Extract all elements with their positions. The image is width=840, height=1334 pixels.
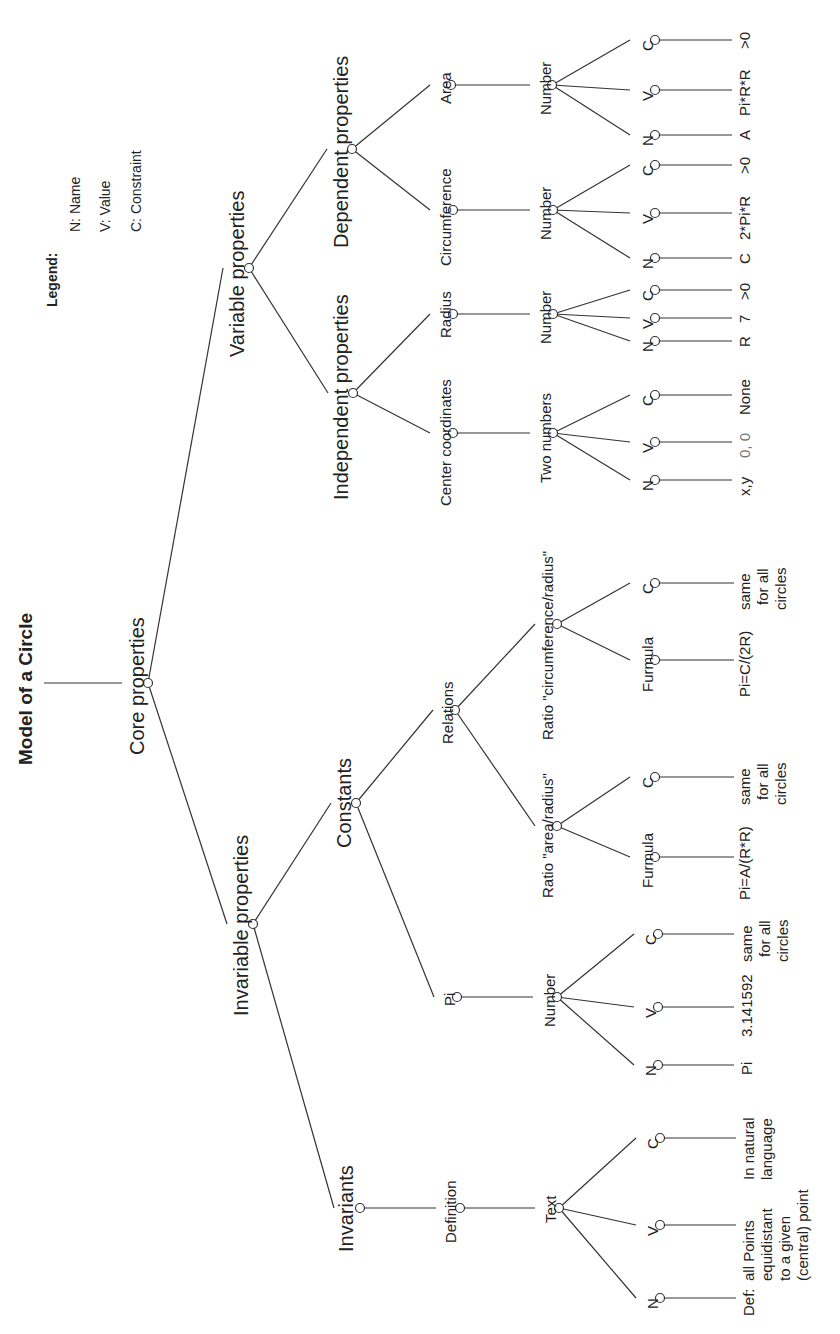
leaf-line: to a given	[776, 1216, 793, 1281]
leaf-line: same	[738, 925, 755, 962]
label-pi-number: Number	[541, 974, 558, 1027]
leaf-ratio-area-constraint: same for all circles	[736, 762, 789, 805]
label-radius-number: Number	[537, 291, 554, 344]
label-circumference: Circumference	[437, 168, 454, 266]
label-n: N	[639, 480, 656, 491]
leaf-line: same	[736, 573, 753, 610]
legend-heading: Legend:	[44, 253, 60, 307]
leaf-radius-name: R	[736, 336, 753, 347]
leaf-line: circles	[772, 762, 789, 805]
label-n: N	[644, 1298, 661, 1309]
label-core-properties: Core properties	[126, 617, 148, 755]
label-two-numbers: Two numbers	[537, 393, 554, 483]
leaf-pi-value: 3.141592	[738, 974, 755, 1037]
leaf-ratio-area-formula: Pi=A/(R*R)	[736, 826, 753, 900]
leaf-center-name: x,y	[736, 476, 753, 496]
label-n: N	[639, 258, 656, 269]
label-c: C	[639, 40, 656, 51]
leaf-area-value: Pi*R*R	[736, 69, 753, 116]
label-definition: Definition	[442, 1180, 459, 1243]
label-formula: Furmula	[639, 636, 656, 692]
leaf-ratio-circ-constraint: same for all circles	[736, 567, 789, 610]
label-n: N	[639, 135, 656, 146]
label-v: V	[642, 1008, 659, 1018]
label-invariable-properties: Invariable properties	[230, 835, 252, 1016]
tree-diagram: Model of a Circle Legend: N: Name V: Val…	[0, 0, 840, 1334]
label-text: Text	[542, 1195, 559, 1223]
leaf-radius-value: 7	[736, 315, 753, 323]
leaf-circ-constraint: >0	[736, 157, 753, 174]
label-ratio-area-radius: Ratio "area/radius"	[539, 773, 556, 898]
leaf-line: all Points	[740, 1220, 757, 1281]
label-v: V	[639, 91, 656, 101]
label-center-coordinates: Center coordinates	[437, 379, 454, 506]
leaf-line: language	[758, 1118, 775, 1180]
label-relations: Relations	[439, 681, 456, 744]
leaf-circ-name: C	[736, 253, 753, 264]
leaf-center-value: 0, 0	[736, 433, 753, 458]
leaf-line: same	[736, 768, 753, 805]
leaf-area-constraint: >0	[736, 32, 753, 49]
label-c: C	[639, 290, 656, 301]
leaf-line: for all	[754, 763, 771, 800]
label-c: C	[644, 1138, 661, 1149]
leaf-area-name: A	[736, 130, 753, 140]
label-pi: Pi	[441, 993, 458, 1006]
leaf-def-name: Def:	[740, 1288, 757, 1316]
legend-item-value: V: Value	[97, 180, 113, 232]
label-n: N	[639, 341, 656, 352]
label-invariants: Invariants	[335, 1165, 357, 1252]
label-c: C	[639, 165, 656, 176]
label-formula: Furmula	[639, 832, 656, 888]
label-radius: Radius	[437, 291, 454, 338]
label-c: C	[642, 934, 659, 945]
label-c: C	[639, 583, 656, 594]
legend-item-name: N: Name	[67, 177, 83, 232]
leaf-ratio-circ-formula: Pi=C/(2R)	[736, 631, 753, 697]
leaf-radius-constraint: >0	[736, 283, 753, 300]
leaf-line: circles	[774, 919, 791, 962]
leaf-line: for all	[754, 568, 771, 605]
leaf-line: (central) point	[794, 1188, 811, 1281]
legend-item-constraint: C: Constraint	[128, 150, 144, 232]
label-v: V	[639, 319, 656, 329]
label-dependent-properties: Dependent properties	[330, 56, 352, 248]
leaf-def-constraint: In natural language	[740, 1117, 775, 1180]
leaf-center-constraint: None	[736, 379, 753, 415]
leaf-line: circles	[772, 567, 789, 610]
diagram-title: Model of a Circle	[15, 613, 36, 765]
label-area: Area	[437, 72, 454, 104]
leaf-line: In natural	[740, 1117, 757, 1180]
labels: Model of a Circle Legend: N: Name V: Val…	[15, 32, 811, 1316]
label-c: C	[639, 395, 656, 406]
leaf-line: equidistant	[758, 1208, 775, 1281]
label-v: V	[644, 1226, 661, 1236]
label-area-number: Number	[537, 62, 554, 115]
leaf-circ-value: 2*Pi*R	[736, 196, 753, 240]
label-circ-number: Number	[537, 187, 554, 240]
leaf-line: for all	[756, 920, 773, 957]
label-constants: Constants	[333, 758, 355, 848]
nodes	[144, 36, 665, 1303]
leaf-pi-constraint: same for all circles	[738, 919, 791, 962]
leaf-pi-name: Pi	[738, 1062, 755, 1075]
label-n: N	[642, 1065, 659, 1076]
label-v: V	[639, 214, 656, 224]
label-c: C	[639, 777, 656, 788]
label-v: V	[639, 443, 656, 453]
leaf-def-value: all Points equidistant to a given (centr…	[740, 1188, 811, 1281]
label-variable-properties: Variable properties	[226, 191, 248, 357]
label-independent-properties: Independent properties	[330, 294, 352, 500]
label-ratio-circumference-radius: Ratio "circumference/radius"	[539, 551, 556, 740]
